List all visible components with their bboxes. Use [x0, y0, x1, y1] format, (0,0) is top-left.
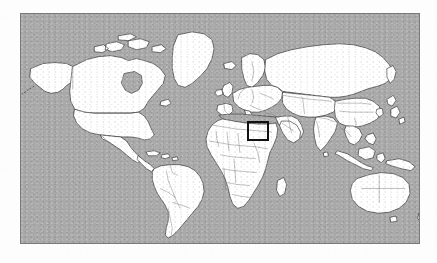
world-map-canvas[interactable] [21, 14, 419, 243]
world-map-figure [0, 0, 437, 263]
map-frame[interactable] [20, 13, 420, 244]
iberia [217, 103, 233, 115]
tasmania [390, 216, 397, 222]
sri-lanka [323, 152, 328, 157]
